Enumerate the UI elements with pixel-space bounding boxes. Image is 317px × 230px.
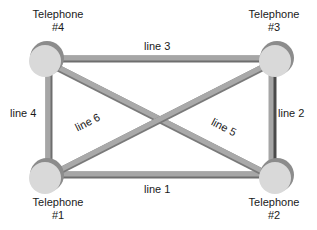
node-label-number: #1 — [18, 209, 98, 222]
node-label-name: Telephone — [18, 8, 98, 21]
node-label-telephone-2: Telephone #2 — [234, 196, 314, 222]
node-label-name: Telephone — [234, 8, 314, 21]
link-label-line2: line 2 — [278, 107, 304, 120]
node-telephone-2 — [259, 158, 294, 194]
node-label-number: #2 — [234, 209, 314, 222]
link-label-line1: line 1 — [144, 183, 170, 196]
node-telephone-1 — [29, 158, 64, 194]
node-label-telephone-3: Telephone #3 — [234, 8, 314, 34]
link-line3 — [48, 58, 272, 59]
node-label-telephone-1: Telephone #1 — [18, 196, 98, 222]
link-label-line3: line 3 — [144, 40, 170, 53]
node-label-number: #3 — [234, 21, 314, 34]
node-telephone-3 — [259, 41, 294, 77]
node-label-name: Telephone — [234, 196, 314, 209]
node-label-number: #4 — [18, 21, 98, 34]
link-label-line4: line 4 — [10, 107, 36, 120]
node-label-telephone-4: Telephone #4 — [18, 8, 98, 34]
link-line1 — [48, 174, 272, 175]
node-label-name: Telephone — [18, 196, 98, 209]
telephone-mesh-diagram: Telephone #4 Telephone #3 Telephone #1 T… — [0, 0, 317, 230]
